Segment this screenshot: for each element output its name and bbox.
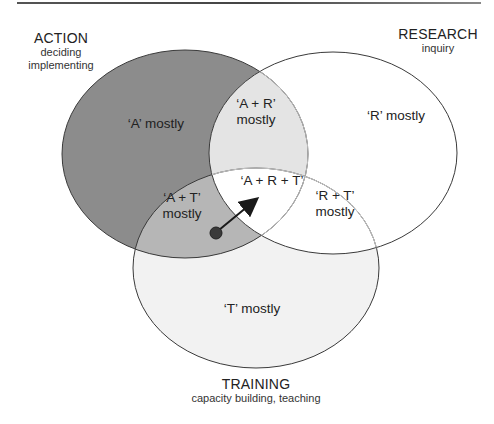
- region-a-mostly: ‘A’ mostly: [116, 116, 196, 132]
- action-subtitle-2: implementing: [26, 59, 96, 72]
- action-label: ACTION deciding implementing: [26, 30, 96, 71]
- region-at-mostly: ‘A + T’ mostly: [152, 190, 212, 221]
- region-at-line1: ‘A + T’: [152, 190, 212, 206]
- region-rt-line1: ‘R + T’: [300, 188, 370, 204]
- region-r-mostly: ‘R’ mostly: [356, 108, 436, 124]
- region-t-mostly: ‘T’ mostly: [212, 301, 292, 317]
- region-art: ‘A + R + T’: [222, 173, 322, 189]
- region-rt-mostly: ‘R + T’ mostly: [300, 188, 370, 219]
- research-title: RESEARCH: [398, 26, 478, 42]
- training-subtitle: capacity building, teaching: [156, 392, 356, 405]
- training-title: TRAINING: [156, 376, 356, 392]
- region-ar-mostly: ‘A + R’ mostly: [226, 96, 286, 127]
- research-label: RESEARCH inquiry: [398, 26, 478, 55]
- training-label: TRAINING capacity building, teaching: [156, 376, 356, 405]
- action-subtitle-1: deciding: [26, 46, 96, 59]
- region-ar-line2: mostly: [226, 112, 286, 128]
- research-subtitle: inquiry: [398, 42, 478, 55]
- region-rt-line2: mostly: [300, 204, 370, 220]
- region-at-line2: mostly: [152, 206, 212, 222]
- region-ar-line1: ‘A + R’: [226, 96, 286, 112]
- position-dot: [210, 227, 222, 239]
- action-title: ACTION: [26, 30, 96, 46]
